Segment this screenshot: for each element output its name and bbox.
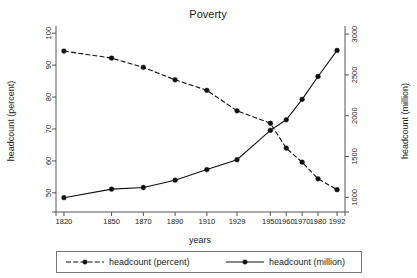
left-tick-label: 60	[44, 157, 53, 165]
poverty-chart: Poverty 5060708090100 100015002000250030…	[0, 0, 417, 278]
x-tick-label: 1950	[262, 217, 279, 226]
series-marker	[62, 195, 67, 200]
x-tick-label: 1960	[278, 217, 295, 226]
series-marker	[300, 160, 305, 165]
y2-axis-label: headcount (million)	[400, 83, 410, 159]
right-tick-label: 1000	[350, 189, 359, 206]
series-marker	[109, 187, 114, 192]
series-marker	[300, 97, 305, 102]
x-tick-label: 1970	[294, 217, 311, 226]
series-marker	[204, 167, 209, 172]
y-axis-label: headcount (percent)	[6, 81, 16, 162]
right-axis: 10001500200025003000	[345, 26, 359, 216]
left-tick-label: 100	[44, 27, 53, 40]
x-axis: 1820185018701890191019291950196019701980…	[52, 212, 349, 226]
series-marker	[316, 74, 321, 79]
chart-canvas: Poverty 5060708090100 100015002000250030…	[0, 0, 417, 278]
left-tick-label: 50	[44, 189, 53, 197]
series-marker	[173, 77, 178, 82]
chart-legend: headcount (percent)headcount (million)	[57, 252, 362, 273]
x-tick-label: 1992	[329, 217, 346, 226]
series-marker	[235, 108, 240, 113]
legend-label: headcount (million)	[269, 257, 345, 267]
series-marker	[204, 88, 209, 93]
chart-title: Poverty	[189, 8, 227, 20]
series-plot-area	[62, 48, 340, 200]
right-tick-label: 1500	[350, 148, 359, 165]
legend-label: headcount (percent)	[109, 257, 190, 267]
series-line-0	[64, 51, 337, 190]
legend-marker	[243, 260, 248, 265]
series-marker	[141, 65, 146, 70]
x-tick-label: 1820	[56, 217, 73, 226]
series-marker	[173, 178, 178, 183]
series-marker	[284, 146, 289, 151]
series-marker	[284, 117, 289, 122]
left-tick-label: 80	[44, 93, 53, 101]
series-line-1	[64, 50, 337, 197]
right-tick-label: 3000	[350, 26, 359, 43]
x-axis-label: years	[189, 235, 212, 245]
right-tick-label: 2500	[350, 67, 359, 84]
right-tick-label: 2000	[350, 107, 359, 124]
x-tick-label: 1870	[135, 217, 152, 226]
x-tick-label: 1890	[167, 217, 184, 226]
left-tick-label: 70	[44, 125, 53, 133]
left-axis: 5060708090100	[44, 26, 56, 216]
series-marker	[316, 176, 321, 181]
x-tick-label: 1929	[229, 217, 246, 226]
series-marker	[109, 56, 114, 61]
x-tick-label: 1980	[310, 217, 327, 226]
series-marker	[268, 121, 273, 126]
series-marker	[141, 185, 146, 190]
legend-marker	[83, 260, 88, 265]
series-marker	[62, 49, 67, 54]
series-marker	[268, 128, 273, 133]
left-tick-label: 90	[44, 61, 53, 69]
x-tick-label: 1850	[103, 217, 120, 226]
series-marker	[335, 187, 340, 192]
series-marker	[335, 48, 340, 53]
series-marker	[235, 157, 240, 162]
legend-items: headcount (percent)headcount (million)	[66, 257, 345, 267]
x-tick-label: 1910	[199, 217, 216, 226]
